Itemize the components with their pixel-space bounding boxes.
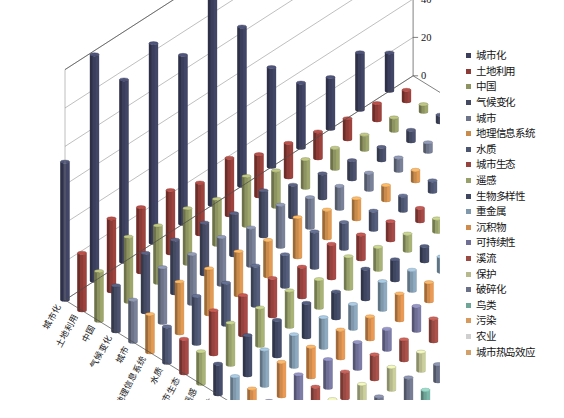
chart-bar [226,321,235,367]
legend-item[interactable]: 城市生态 [466,157,564,173]
legend-item[interactable]: 可持续性 [466,235,564,251]
chart-bar [149,42,158,245]
chart-bar [322,208,331,240]
legend-item[interactable]: 污染 [466,313,564,329]
chart-bar [268,276,277,318]
chart-bar [374,395,383,400]
chart-bar [361,267,370,301]
chart-bar [420,244,429,263]
chart-bar [428,179,437,194]
chart-bar [141,251,150,314]
chart-bar [412,304,421,332]
legend-item[interactable]: 生物多样性 [466,188,564,204]
legend-item-label: 农业 [476,331,496,342]
legend-swatch-icon [466,287,471,292]
legend-item-label: 重金属 [476,206,505,217]
legend-item[interactable]: 城市化 [466,48,564,64]
legend-item[interactable]: 土地利用 [466,64,564,80]
chart-bar [355,51,364,112]
chart-bar [302,301,311,339]
chart-bar [327,242,336,280]
legend-item-label: 城市生态 [476,159,515,170]
chart-bar [94,269,103,322]
legend-item[interactable]: 溪流 [466,251,564,267]
chart-bar [357,382,366,400]
chart-bar [403,232,412,253]
chart-bar [285,289,294,329]
chart-bar [353,340,362,370]
legend-item-label: 保护 [476,269,496,280]
chart-bar [145,312,154,354]
chart-bar [394,156,403,173]
chart-bar [276,203,285,249]
chart-bar [407,268,416,293]
chart-bar [399,338,408,363]
chart-bar [416,350,425,373]
chart-bar [246,226,255,268]
legend-item[interactable]: 水质 [466,142,564,158]
legend-item[interactable]: 中国 [466,79,564,95]
chart-bar [389,116,398,133]
chart-bar [411,168,420,183]
chart-bar [271,169,280,209]
legend-swatch-icon [466,116,471,121]
legend-swatch-icon [466,69,471,74]
chart-bar [331,290,340,320]
chart-bar [310,230,319,270]
legend-item[interactable]: 城市 [466,110,564,126]
chart-bar [217,235,226,286]
depth-tick-label: 土地利用 [53,312,80,349]
legend-item[interactable]: 农业 [466,329,564,345]
chart-bar [432,217,440,234]
legend-item-label: 溪流 [476,253,496,264]
y-tick-label: 20 [421,32,432,43]
chart-bar [196,350,205,386]
chart-bar [319,316,328,350]
chart-bar [305,196,314,230]
legend-item[interactable]: 城市热岛效应 [466,344,564,360]
chart-bar [423,141,432,154]
legend-item[interactable]: 破碎化 [466,282,564,298]
legend-item-label: 城市化 [476,50,505,61]
chart-bar [293,215,302,259]
chart-bar [323,358,332,390]
legend-item-label: 破碎化 [476,284,505,295]
legend-item[interactable]: 鸟类 [466,298,564,314]
chart-bar [326,75,335,130]
legend-swatch-icon [466,256,471,261]
chart-figure: 0204060801001202013201120192007200620032… [0,0,564,418]
chart-bar [175,280,184,335]
legend-item[interactable]: 遥感 [466,173,564,189]
chart-bar [242,174,251,227]
depth-tick-label: 遥感 [181,386,199,400]
legend-item-label: 遥感 [476,175,496,186]
chart-bar [390,258,399,283]
legend-item[interactable]: 重金属 [466,204,564,220]
legend-swatch-icon [466,194,471,199]
chart-3d-canvas: 0204060801001202013201120192007200620032… [0,0,440,400]
chart-bar [387,365,396,391]
legend-swatch-icon [466,225,471,230]
legend-item[interactable]: 沉积物 [466,220,564,236]
legend-item-label: 地理信息系统 [476,128,535,139]
legend-swatch-icon [466,100,471,105]
chart-bar [158,266,167,325]
legend-swatch-icon [466,178,471,183]
chart-bar [372,102,381,123]
chart-bar [415,206,424,223]
chart-legend: 城市化土地利用中国气候变化城市地理信息系统水质城市生态遥感生物多样性重金属沉积物… [466,48,564,360]
chart-bar [247,387,256,400]
legend-item-label: 沉积物 [476,222,505,233]
legend-item[interactable]: 保护 [466,266,564,282]
depth-tick-label: 气候变化 [87,333,114,370]
chart-bar [255,306,264,348]
chart-bar [328,398,337,401]
chart-bar [111,284,120,333]
chart-bar [192,294,201,345]
chart-bar [178,53,187,225]
legend-item[interactable]: 气候变化 [466,95,564,111]
chart-bar [406,128,415,143]
legend-item-label: 鸟类 [476,300,496,311]
legend-item[interactable]: 地理信息系统 [466,126,564,142]
chart-bar [272,318,281,358]
